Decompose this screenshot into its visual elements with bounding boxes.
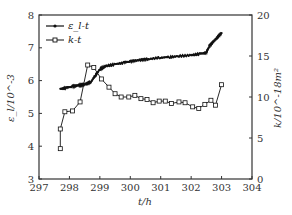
data-point-marker	[169, 102, 173, 106]
left-y-tick-label: 4	[28, 141, 34, 152]
left-y-tick-label: 6	[28, 75, 34, 86]
data-point-marker	[92, 65, 96, 69]
left-y-tick-label: 3	[28, 174, 34, 185]
left-y-tick-label: 8	[28, 10, 34, 21]
open-square-marker-icon	[53, 38, 57, 42]
series-epsilon-t	[59, 32, 222, 90]
data-point-marker	[191, 105, 195, 109]
filled-dot-marker-icon	[53, 24, 56, 27]
data-point-marker	[58, 127, 62, 131]
data-point-marker	[163, 99, 167, 103]
data-point-marker	[220, 83, 224, 87]
legend-label-epsilon: ε_l-t	[68, 20, 90, 32]
series-k-t	[58, 63, 223, 151]
legend-item-epsilon: ε_l-t	[46, 20, 90, 32]
x-tick-label: 299	[90, 182, 109, 193]
right-y-tick-label: 15	[257, 51, 270, 62]
data-point-marker	[145, 97, 149, 101]
data-point-marker	[119, 95, 123, 99]
left-y-axis-ticks: 345678	[28, 10, 42, 185]
data-point-marker	[58, 147, 62, 151]
data-point-marker	[63, 110, 67, 114]
data-point-marker	[197, 106, 201, 110]
x-tick-label: 301	[151, 182, 170, 193]
legend: ε_l-t k-t	[46, 20, 90, 45]
right-y-tick-label: 5	[257, 133, 263, 144]
x-axis-title: t/h	[138, 196, 152, 207]
data-point-marker	[203, 102, 207, 106]
left-y-axis-title: ε_l/10^-3	[5, 74, 17, 122]
data-point-marker	[107, 85, 111, 89]
dual-axis-line-chart: 297298299300301302303304 345678 05101520…	[0, 0, 292, 215]
data-point-marker	[127, 95, 131, 99]
legend-item-k: k-t	[46, 34, 82, 45]
x-tick-label: 298	[60, 182, 79, 193]
data-point-marker	[157, 99, 161, 103]
data-point-marker	[151, 101, 155, 105]
data-point-marker	[209, 98, 213, 102]
data-point-marker	[177, 100, 181, 104]
x-tick-label: 303	[212, 182, 231, 193]
right-y-tick-label: 10	[257, 92, 270, 103]
data-point-marker	[78, 100, 82, 104]
x-tick-label: 300	[121, 182, 140, 193]
right-y-axis-title: k/10^-18m²	[272, 68, 283, 128]
data-point-marker	[183, 101, 187, 105]
data-point-marker	[86, 63, 90, 67]
data-point-marker	[213, 103, 217, 107]
data-point-marker	[133, 93, 137, 97]
legend-label-k: k-t	[68, 34, 82, 45]
right-y-tick-label: 20	[257, 10, 270, 21]
x-tick-label: 302	[182, 182, 201, 193]
data-point-marker	[113, 92, 117, 96]
left-y-tick-label: 5	[28, 108, 34, 119]
left-y-tick-label: 7	[28, 42, 34, 53]
data-point-marker	[99, 77, 103, 81]
right-y-tick-label: 0	[257, 174, 263, 185]
data-point-marker	[139, 97, 143, 101]
data-point-marker	[70, 109, 74, 113]
